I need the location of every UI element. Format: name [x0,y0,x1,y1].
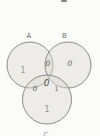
region-value-a-and-c: 0 [33,85,38,93]
venn-diagram: A B C 1 0 0 0 0 1 1 [0,0,100,136]
region-value-b-and-c: 1 [54,85,58,93]
region-value-b-only: 0 [68,59,73,68]
region-value-a-b-c: 0 [44,78,50,88]
venn-diagram-canvas: A B C 1 0 0 0 0 1 1 [0,0,100,136]
region-value-a-only: 1 [20,66,25,75]
region-value-a-and-b: 0 [46,59,51,68]
set-label-c: C [44,131,49,137]
set-label-a: A [27,32,32,40]
top-edge-artifact [61,0,67,2]
set-label-b: B [62,32,67,40]
region-value-c-only: 1 [44,105,49,114]
